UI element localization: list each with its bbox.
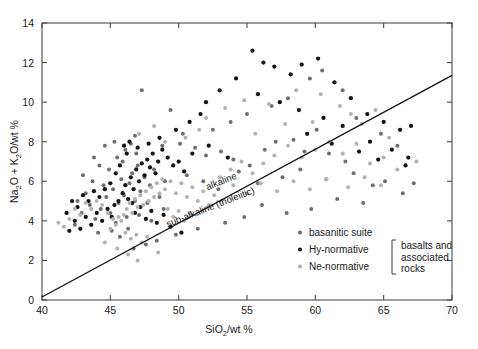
data-point xyxy=(352,171,356,175)
data-point xyxy=(121,191,125,195)
data-point xyxy=(286,96,290,100)
data-point xyxy=(401,191,405,195)
data-point xyxy=(267,102,271,106)
data-point xyxy=(193,146,197,150)
y-tick-label: 12 xyxy=(22,57,34,69)
data-point xyxy=(291,179,295,183)
data-point xyxy=(56,221,60,225)
x-tick-label: 50 xyxy=(173,304,185,316)
data-point xyxy=(363,175,367,179)
data-point xyxy=(112,140,116,144)
tas-diagram-figure: 4045505560657002468101214 alkalinesub-al… xyxy=(0,0,478,349)
data-point xyxy=(297,108,301,112)
data-point xyxy=(134,152,138,156)
data-point xyxy=(223,221,227,225)
data-point xyxy=(349,112,353,116)
data-point xyxy=(67,229,71,233)
data-point xyxy=(174,191,178,195)
data-point xyxy=(197,128,201,132)
legend-marker xyxy=(298,247,302,251)
data-point xyxy=(231,183,235,187)
data-point xyxy=(190,151,194,155)
data-point xyxy=(403,163,407,167)
data-point xyxy=(365,112,369,116)
data-point xyxy=(346,185,350,189)
data-point xyxy=(137,132,141,136)
data-point xyxy=(84,201,88,205)
y-tick-label: 14 xyxy=(22,17,34,29)
data-point xyxy=(166,155,170,159)
data-point xyxy=(78,227,82,231)
data-point xyxy=(88,203,92,207)
data-point xyxy=(123,148,127,152)
data-point xyxy=(89,223,93,227)
data-point xyxy=(149,185,153,189)
data-point xyxy=(245,112,249,116)
data-point xyxy=(286,144,290,148)
legend-group-label-line: rocks xyxy=(401,263,425,274)
data-point xyxy=(311,120,315,124)
data-point xyxy=(382,120,386,124)
data-point xyxy=(158,195,162,199)
data-point xyxy=(357,149,361,153)
data-point xyxy=(137,213,141,217)
x-tick-label: 65 xyxy=(378,304,390,316)
data-point xyxy=(103,241,107,245)
data-point xyxy=(231,158,235,162)
data-point xyxy=(319,92,323,96)
data-point xyxy=(395,167,399,171)
legend-label: Hy-normative xyxy=(309,244,369,255)
data-point xyxy=(136,163,140,167)
data-point xyxy=(187,120,191,124)
data-point xyxy=(155,181,159,185)
data-point xyxy=(152,124,156,128)
data-point xyxy=(123,231,127,235)
data-point xyxy=(125,151,129,155)
data-point xyxy=(168,179,172,183)
legend-group: basanitic suiteHy-normativeNe-normativeb… xyxy=(298,227,452,274)
data-point xyxy=(126,227,130,231)
data-point xyxy=(177,159,181,163)
data-point xyxy=(100,203,104,207)
data-point xyxy=(371,183,375,187)
data-point xyxy=(368,140,372,144)
data-point xyxy=(327,152,331,156)
data-point xyxy=(138,193,142,197)
data-point xyxy=(272,64,276,68)
data-point xyxy=(414,160,418,164)
data-point xyxy=(73,219,77,223)
x-tick-label: 70 xyxy=(446,304,458,316)
data-point xyxy=(144,243,148,247)
data-point xyxy=(145,157,149,161)
legend-marker xyxy=(298,264,302,268)
data-point xyxy=(116,199,120,203)
data-point xyxy=(117,215,121,219)
data-point xyxy=(149,209,153,213)
data-point xyxy=(185,195,189,199)
data-point xyxy=(274,140,278,144)
data-point xyxy=(341,124,345,128)
data-point xyxy=(127,201,131,205)
x-tick-label: 45 xyxy=(104,304,116,316)
data-point xyxy=(308,76,312,80)
data-point xyxy=(155,239,159,243)
data-point xyxy=(285,211,289,215)
data-point xyxy=(142,173,146,177)
data-point xyxy=(171,163,175,167)
data-point xyxy=(174,233,178,237)
data-point xyxy=(338,104,342,108)
data-point xyxy=(160,177,164,181)
data-point xyxy=(387,136,391,140)
data-point xyxy=(156,159,160,163)
data-point xyxy=(278,100,282,104)
data-point xyxy=(263,148,267,152)
legend-group-label-line: associated xyxy=(401,252,449,263)
data-point xyxy=(141,203,145,207)
data-point xyxy=(129,175,133,179)
data-point xyxy=(321,116,325,120)
data-point xyxy=(373,108,377,112)
data-point xyxy=(122,144,126,148)
data-point xyxy=(105,207,109,211)
data-point xyxy=(119,219,123,223)
data-point xyxy=(162,207,166,211)
